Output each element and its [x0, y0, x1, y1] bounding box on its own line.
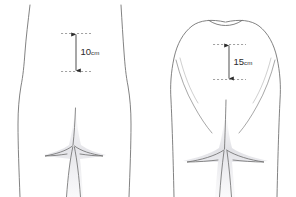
anatomical-diagram-svg: 10cm: [0, 0, 296, 197]
right-dimension-unit: cm: [244, 59, 252, 66]
left-dimension-unit: cm: [91, 49, 99, 56]
diagram-canvas: 10cm: [0, 0, 296, 197]
right-dimension-value: 15: [234, 56, 245, 67]
left-dimension-value: 10: [81, 46, 92, 57]
background: [0, 0, 296, 197]
